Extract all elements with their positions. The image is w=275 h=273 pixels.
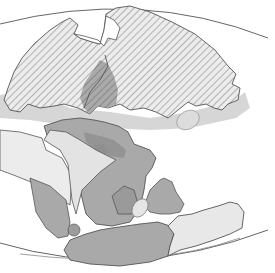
southern-elongate-west: [64, 222, 174, 266]
map-canvas: [0, 0, 275, 273]
southern-small-lobe: [68, 224, 80, 236]
paleogeographic-map: [0, 0, 275, 273]
northern-landmass: [4, 6, 240, 118]
small-island-east: [144, 178, 184, 214]
